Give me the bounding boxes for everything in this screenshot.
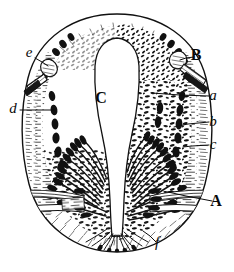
- cross-section-illustration: A B C a b c d e f: [0, 0, 234, 272]
- label-c: c: [210, 136, 217, 152]
- label-A: A: [210, 192, 222, 209]
- label-e: e: [26, 44, 33, 60]
- label-B: B: [191, 46, 202, 63]
- label-d: d: [9, 100, 17, 116]
- hatched-plate-left: [62, 197, 85, 210]
- label-C: C: [95, 89, 107, 106]
- label-a: a: [209, 87, 217, 103]
- label-b: b: [209, 113, 217, 129]
- figure-container: A B C a b c d e f: [0, 0, 234, 272]
